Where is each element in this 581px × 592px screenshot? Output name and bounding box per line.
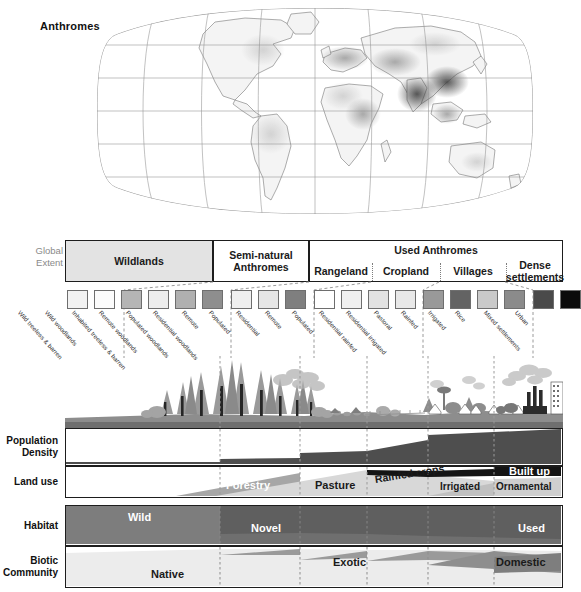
population-density-wedge: [66, 429, 561, 464]
tick-label-wild-treeless-barren: Wild treeless & barren: [17, 309, 64, 361]
swatch-residential-irrigated[interactable]: [395, 290, 416, 309]
row-label-habitat: Habitat: [0, 505, 63, 546]
swatch-urban[interactable]: [560, 290, 581, 309]
tick-label-rangeland-residential: Residential: [235, 309, 261, 337]
biotic-community-wedges: [66, 547, 561, 586]
band-label-novel: Novel: [251, 522, 281, 534]
panel-population-density: [65, 428, 563, 466]
landscape-cross-section-illustration: [65, 356, 563, 428]
row-label-biotic-community-line2: Community: [3, 567, 58, 579]
anthrome-color-swatches: [65, 290, 563, 309]
swatch-remote-woodlands[interactable]: [148, 290, 169, 309]
landscape-svg: [65, 356, 563, 428]
row-label-biotic-community-line1: Biotic: [30, 555, 58, 567]
band-label-pasture: Pasture: [315, 479, 355, 491]
swatch-cropland-populated[interactable]: [341, 290, 362, 309]
row-label-population-density: Population Density: [0, 428, 63, 466]
swatch-rangeland-residential[interactable]: [285, 290, 306, 309]
row-label-habitat-text: Habitat: [24, 520, 58, 532]
swatch-rice[interactable]: [504, 290, 525, 309]
band-label-used: Used: [518, 522, 545, 534]
panel-land-use: Forestry Pasture Rainfed crops Irrigated…: [65, 466, 563, 498]
band-label-wild: Wild: [128, 511, 151, 523]
swatch-cropland-remote[interactable]: [314, 290, 335, 309]
swatch-rainfed[interactable]: [450, 290, 471, 309]
tick-label-cropland-populated: Populated: [291, 309, 315, 335]
swatch-rangeland-remote[interactable]: [231, 290, 252, 309]
band-label-forestry: Forestry: [226, 479, 270, 491]
panel-habitat: Wild Novel Used: [65, 505, 563, 546]
tick-label-cropland-remote: Remote: [264, 309, 284, 330]
land-use-wedges: [66, 467, 561, 496]
swatch-populated-woodlands[interactable]: [175, 290, 196, 309]
panel-biotic-community: Native Exotic Domestic: [65, 546, 563, 588]
tick-label-rainfed: Rainfed: [400, 309, 420, 330]
band-label-built-up: Built up: [509, 466, 550, 477]
band-label-native: Native: [151, 568, 184, 580]
swatch-inhabited-treeless-barren[interactable]: [121, 290, 142, 309]
tick-label-rangeland-remote: Remote: [181, 309, 201, 330]
band-label-domestic: Domestic: [496, 556, 546, 568]
swatch-wild-woodlands[interactable]: [94, 290, 115, 309]
swatch-wild-treeless-barren[interactable]: [67, 290, 88, 309]
swatch-pastoral[interactable]: [423, 290, 444, 309]
swatch-tick-labels: Wild treeless & barren Wild woodlands In…: [0, 309, 565, 355]
row-label-population-density-line2: Density: [22, 447, 58, 459]
tick-label-pastoral: Pastoral: [373, 309, 394, 331]
row-label-land-use-text: Land use: [14, 476, 58, 488]
row-label-biotic-community: Biotic Community: [0, 546, 63, 588]
swatch-rangeland-populated[interactable]: [258, 290, 279, 309]
swatch-mixed-settlements[interactable]: [533, 290, 554, 309]
tick-label-rice: Rice: [454, 309, 468, 323]
band-label-ornamental: Ornamental: [496, 481, 552, 492]
anthromes-world-map: [95, 4, 535, 218]
swatch-residential-rainfed[interactable]: [368, 290, 389, 309]
band-label-irrigated: Irrigated: [440, 481, 480, 492]
row-label-population-density-line1: Population: [6, 435, 58, 447]
swatch-irrigated[interactable]: [477, 290, 498, 309]
world-map-panel: Anthromes: [0, 0, 565, 222]
map-title: Anthromes: [40, 20, 100, 32]
tick-label-irrigated: Irrigated: [427, 309, 448, 331]
row-label-land-use: Land use: [0, 466, 63, 498]
tick-label-urban: Urban: [514, 309, 531, 327]
tick-label-rangeland-populated: Populated: [208, 309, 232, 335]
swatch-residential-woodlands[interactable]: [202, 290, 223, 309]
band-label-exotic: Exotic: [333, 556, 366, 568]
